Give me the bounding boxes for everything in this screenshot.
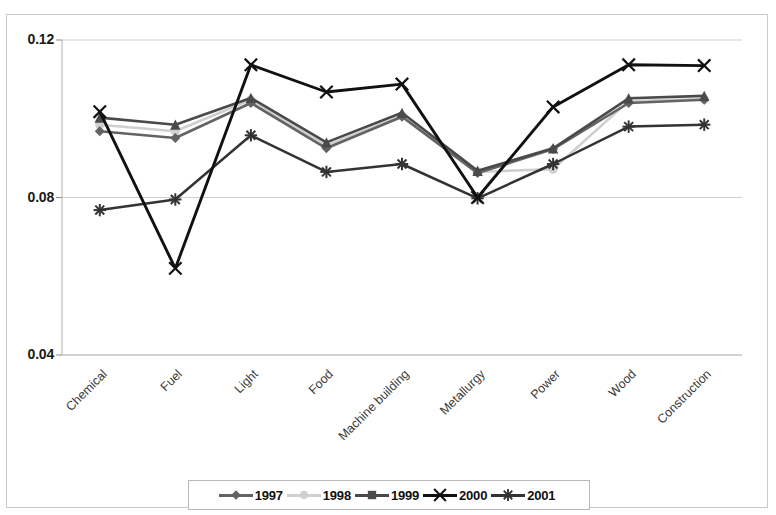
data-point-marker bbox=[169, 193, 181, 205]
line-chart: 0.040.080.12 ChemicalFuelLightFoodMachin… bbox=[0, 0, 776, 515]
data-point-marker bbox=[502, 489, 514, 501]
y-axis-tick-label: 0.08 bbox=[8, 189, 54, 205]
legend-marker-diamond-icon bbox=[219, 488, 253, 502]
legend-label: 2000 bbox=[457, 488, 491, 503]
data-point-marker bbox=[547, 101, 559, 113]
data-point-marker bbox=[169, 262, 181, 274]
data-point-marker bbox=[231, 490, 241, 500]
data-point-marker bbox=[622, 120, 634, 132]
data-point-marker bbox=[94, 204, 106, 216]
data-point-marker bbox=[95, 126, 105, 136]
legend-label: 1997 bbox=[253, 488, 287, 503]
data-point-marker bbox=[698, 118, 710, 130]
data-point-marker bbox=[245, 59, 257, 71]
legend-label: 2001 bbox=[525, 488, 559, 503]
y-axis-tick-label: 0.04 bbox=[8, 346, 54, 362]
data-point-marker bbox=[299, 491, 308, 500]
data-point-marker bbox=[320, 166, 332, 178]
legend-label: 1999 bbox=[389, 488, 423, 503]
data-point-marker bbox=[245, 129, 257, 141]
chart-legend: 19971998199920002001 bbox=[188, 480, 590, 510]
legend-marker-circle-icon bbox=[287, 488, 321, 502]
data-point-marker bbox=[368, 491, 376, 499]
legend-label: 1998 bbox=[321, 488, 355, 503]
legend-item-1998: 1998 bbox=[287, 488, 355, 503]
legend-marker-asterisk-icon bbox=[491, 488, 525, 502]
legend-item-1999: 1999 bbox=[355, 488, 423, 503]
legend-item-1997: 1997 bbox=[219, 488, 287, 503]
legend-marker-square-icon bbox=[355, 488, 389, 502]
legend-marker-x-icon bbox=[423, 488, 457, 502]
y-axis-tick-label: 0.12 bbox=[8, 31, 54, 47]
legend-item-2001: 2001 bbox=[491, 488, 559, 503]
data-point-marker bbox=[396, 158, 408, 170]
data-point-marker bbox=[434, 489, 446, 501]
data-point-marker bbox=[170, 133, 180, 143]
data-point-marker bbox=[547, 158, 559, 170]
legend-item-2000: 2000 bbox=[423, 488, 491, 503]
